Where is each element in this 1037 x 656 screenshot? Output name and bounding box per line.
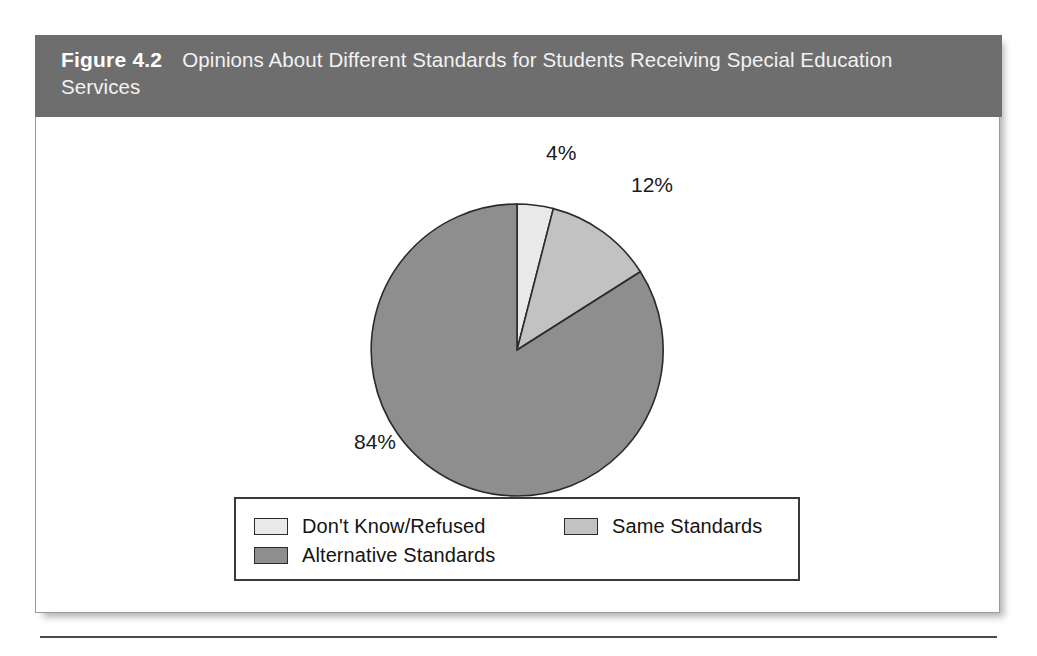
figure-header-text: Figure 4.2Opinions About Different Stand…	[61, 47, 976, 100]
legend-swatch-icon	[564, 518, 598, 535]
legend-row: Alternative Standards	[254, 541, 798, 570]
page-divider-rule	[40, 636, 997, 638]
legend-item-same-standards[interactable]: Same Standards	[564, 515, 762, 538]
pie-value-label-dont-know-refused: 4%	[546, 141, 576, 165]
figure-number: Figure 4.2	[61, 48, 162, 71]
pie-value-label-same-standards: 12%	[631, 173, 673, 197]
figure-panel: Figure 4.2Opinions About Different Stand…	[35, 35, 1000, 613]
plot-area: 4% 12% 84% Don't Know/Refused Same Stand…	[36, 118, 999, 612]
pie-value-label-alternative-standards: 84%	[354, 430, 396, 454]
figure-header: Figure 4.2Opinions About Different Stand…	[35, 35, 1002, 117]
legend-label: Don't Know/Refused	[302, 515, 486, 538]
legend-item-dont-know-refused[interactable]: Don't Know/Refused	[254, 515, 564, 538]
legend-row: Don't Know/Refused Same Standards	[254, 512, 798, 541]
legend-label: Same Standards	[612, 515, 762, 538]
legend-label: Alternative Standards	[302, 544, 495, 567]
legend-swatch-icon	[254, 547, 288, 564]
legend-swatch-icon	[254, 518, 288, 535]
chart-legend: Don't Know/Refused Same Standards Altern…	[234, 497, 800, 581]
legend-item-alternative-standards[interactable]: Alternative Standards	[254, 544, 564, 567]
figure-title: Opinions About Different Standards for S…	[61, 48, 892, 98]
